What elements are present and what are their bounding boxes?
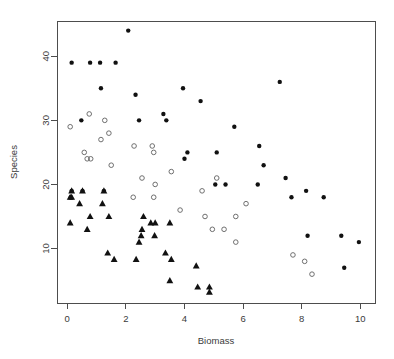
data-point-filled-circle	[181, 86, 185, 90]
data-point-open-circle	[132, 144, 137, 149]
data-point-filled-circle	[256, 182, 260, 186]
data-point-filled-circle	[339, 234, 343, 238]
data-point-filled-triangle	[68, 187, 75, 193]
data-point-filled-circle	[305, 234, 309, 238]
data-point-filled-circle	[198, 99, 202, 103]
x-axis-ticks: 0246810	[65, 303, 366, 324]
data-point-open-circle	[68, 124, 73, 129]
data-point-filled-circle	[342, 266, 346, 270]
data-point-open-circle	[99, 137, 104, 142]
data-point-filled-circle	[161, 112, 165, 116]
x-tick-label: 8	[299, 313, 304, 324]
data-point-filled-circle	[232, 125, 236, 129]
data-point-filled-triangle	[166, 277, 173, 283]
data-point-filled-triangle	[162, 249, 169, 255]
data-point-filled-circle	[69, 60, 73, 64]
y-axis-ticks: 10203040	[40, 51, 57, 254]
data-point-filled-triangle	[84, 226, 91, 232]
data-point-open-circle	[82, 150, 87, 155]
data-point-open-circle	[169, 169, 174, 174]
data-point-filled-circle	[133, 93, 137, 97]
data-point-filled-triangle	[76, 200, 83, 206]
series-open-circle-group	[68, 112, 314, 277]
y-axis-title: Species	[8, 145, 19, 179]
data-point-open-circle	[151, 150, 156, 155]
data-point-filled-circle	[215, 150, 219, 154]
data-point-open-circle	[178, 208, 183, 213]
data-point-open-circle	[214, 176, 219, 181]
data-point-filled-circle	[99, 86, 103, 90]
x-tick-label: 10	[355, 313, 366, 324]
data-point-filled-triangle	[67, 219, 74, 225]
y-tick-label: 30	[40, 115, 51, 126]
data-point-open-circle	[102, 118, 107, 123]
data-point-filled-triangle	[100, 187, 107, 193]
plot-frame	[57, 21, 375, 303]
data-point-filled-triangle	[166, 219, 173, 225]
data-point-filled-triangle	[79, 187, 86, 193]
data-point-filled-circle	[283, 176, 287, 180]
data-point-open-circle	[210, 227, 215, 232]
data-point-filled-circle	[113, 60, 117, 64]
data-point-filled-triangle	[104, 249, 111, 255]
data-point-filled-circle	[304, 189, 308, 193]
y-tick-label: 40	[40, 51, 51, 62]
data-point-filled-triangle	[136, 239, 143, 245]
data-points-layer	[67, 28, 361, 294]
data-point-filled-circle	[257, 144, 261, 148]
data-point-filled-circle	[289, 195, 293, 199]
data-point-filled-triangle	[151, 232, 158, 238]
data-point-open-circle	[203, 214, 208, 219]
data-point-filled-triangle	[193, 262, 200, 268]
data-point-open-circle	[153, 182, 158, 187]
data-point-filled-triangle	[133, 256, 140, 262]
data-point-filled-triangle	[194, 283, 201, 289]
data-point-filled-circle	[137, 118, 141, 122]
data-point-open-circle	[302, 259, 307, 264]
data-point-filled-circle	[261, 163, 265, 167]
y-tick-label: 10	[40, 243, 51, 254]
data-point-open-circle	[310, 272, 315, 277]
data-point-filled-circle	[185, 150, 189, 154]
data-point-open-circle	[151, 195, 156, 200]
series-triangle-group	[67, 187, 213, 294]
x-tick-label: 4	[182, 313, 187, 324]
data-point-filled-circle	[126, 28, 130, 32]
data-point-open-circle	[222, 227, 227, 232]
data-point-open-circle	[87, 112, 92, 117]
data-point-open-circle	[291, 253, 296, 258]
x-tick-label: 6	[240, 313, 245, 324]
data-point-filled-circle	[223, 182, 227, 186]
data-point-filled-triangle	[168, 256, 175, 262]
data-point-open-circle	[131, 195, 136, 200]
x-tick-label: 0	[65, 313, 70, 324]
data-point-filled-circle	[98, 60, 102, 64]
x-tick-label: 2	[123, 313, 128, 324]
data-point-filled-circle	[322, 195, 326, 199]
scatter-plot-figure: 0246810 10203040 Biomass Species	[0, 0, 394, 359]
x-axis-title: Biomass	[198, 335, 235, 346]
data-point-open-circle	[109, 163, 114, 168]
data-point-open-circle	[150, 144, 155, 149]
data-point-filled-circle	[213, 182, 217, 186]
data-point-filled-triangle	[105, 213, 112, 219]
data-point-open-circle	[233, 240, 238, 245]
data-point-filled-triangle	[138, 232, 145, 238]
data-point-filled-triangle	[87, 213, 94, 219]
data-point-filled-circle	[79, 118, 83, 122]
plot-border	[57, 21, 375, 303]
data-point-filled-circle	[357, 240, 361, 244]
data-point-filled-circle	[182, 157, 186, 161]
data-point-open-circle	[200, 189, 205, 194]
data-point-filled-triangle	[99, 200, 106, 206]
data-point-open-circle	[107, 131, 112, 136]
series-filled-circle-group	[69, 28, 362, 270]
data-point-filled-circle	[278, 80, 282, 84]
data-point-open-circle	[140, 176, 145, 181]
data-point-open-circle	[244, 201, 249, 206]
y-tick-label: 20	[40, 179, 51, 190]
data-point-open-circle	[233, 214, 238, 219]
plot-canvas: 0246810 10203040 Biomass Species	[0, 0, 394, 359]
data-point-filled-circle	[164, 118, 168, 122]
data-point-filled-triangle	[139, 226, 146, 232]
